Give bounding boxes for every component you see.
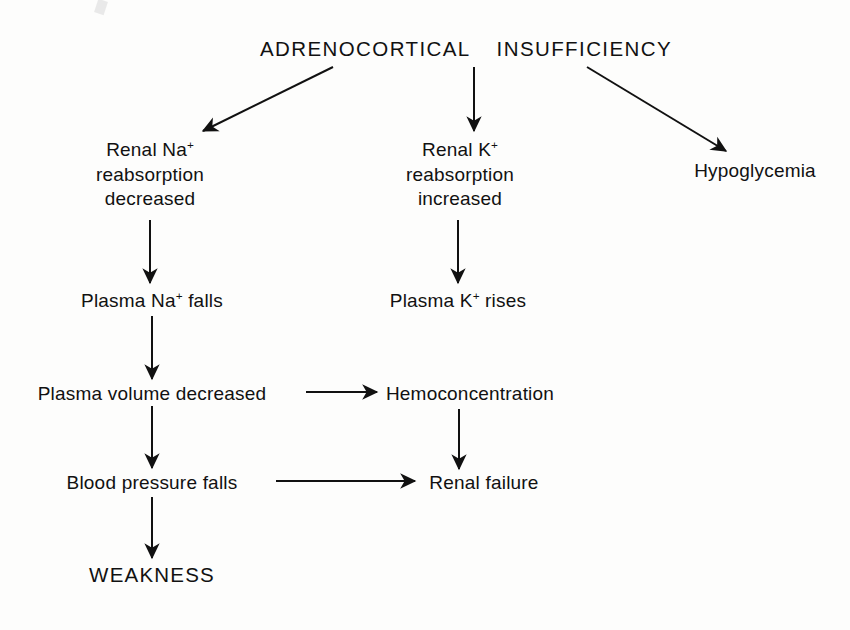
node-plasma-k-rises: Plasma K+ rises xyxy=(390,289,526,314)
weakness-label: WEAKNESS xyxy=(89,562,215,589)
node-renal-failure: Renal failure xyxy=(429,471,538,496)
node-renal-k-reabsorption: Renal K+ reabsorption increased xyxy=(406,138,514,212)
node-hypoglycemia: Hypoglycemia xyxy=(694,159,816,184)
plasma-na-superscript: + xyxy=(176,289,183,302)
edge-root-to-renal-na xyxy=(203,67,333,131)
renal-na-superscript: + xyxy=(187,138,194,151)
node-renal-na-reabsorption: Renal Na+ reabsorption decreased xyxy=(96,138,204,212)
root-word-one: ADRENOCORTICAL xyxy=(260,37,471,60)
node-adrenocortical-insufficiency: ADRENOCORTICALINSUFFICIENCY xyxy=(260,36,672,63)
plasma-k-prefix: Plasma K xyxy=(390,290,473,311)
renal-na-line3: decreased xyxy=(96,187,204,212)
renal-k-line1-text: Renal K xyxy=(422,139,491,160)
plasma-volume-label: Plasma volume decreased xyxy=(38,382,267,407)
node-plasma-volume-decreased: Plasma volume decreased xyxy=(38,382,267,407)
plasma-k-superscript: + xyxy=(473,289,480,302)
renal-k-superscript: + xyxy=(491,138,498,151)
node-weakness: WEAKNESS xyxy=(89,562,215,589)
hypoglycemia-label: Hypoglycemia xyxy=(694,159,816,184)
edge-root-to-hypoglycemia xyxy=(587,67,726,151)
renal-na-line2: reabsorption xyxy=(96,163,204,188)
root-word-two: INSUFFICIENCY xyxy=(497,37,672,60)
renal-failure-label: Renal failure xyxy=(429,471,538,496)
plasma-k-suffix: rises xyxy=(480,290,527,311)
hemoconcentration-label: Hemoconcentration xyxy=(386,382,554,407)
renal-k-line3: increased xyxy=(406,187,514,212)
renal-na-line1-text: Renal Na xyxy=(106,139,187,160)
flowchart-arrow-layer xyxy=(0,0,850,630)
blood-pressure-label: Blood pressure falls xyxy=(67,471,238,496)
node-blood-pressure-falls: Blood pressure falls xyxy=(67,471,238,496)
node-hemoconcentration: Hemoconcentration xyxy=(386,382,554,407)
plasma-na-prefix: Plasma Na xyxy=(81,290,176,311)
node-plasma-na-falls: Plasma Na+ falls xyxy=(81,289,223,314)
plasma-na-suffix: falls xyxy=(183,290,223,311)
renal-k-line2: reabsorption xyxy=(406,163,514,188)
